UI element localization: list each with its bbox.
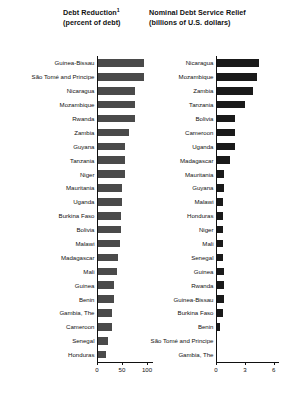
bar-row: Rwanda: [0, 112, 160, 126]
bar-plot-cell: [216, 153, 294, 167]
axis-tick-minor: [254, 362, 255, 364]
bar-row: Mozambique: [0, 98, 160, 112]
bar-category-label: Guinea-Bissau: [0, 59, 97, 66]
bar-row: Cameroon: [145, 125, 294, 139]
bar-category-label: Niger: [0, 171, 97, 178]
bar-plot-cell: [216, 348, 294, 362]
bar-row: Honduras: [145, 209, 294, 223]
bar-category-label: Uganda: [0, 198, 97, 205]
bar-plot-cell: [216, 334, 294, 348]
bar-row: Malawi: [145, 195, 294, 209]
bar-row: Benin: [0, 292, 160, 306]
bar-plot-cell: [216, 278, 294, 292]
bar-row: Mauritania: [0, 181, 160, 195]
bar-category-label: Zambia: [145, 87, 216, 94]
bar: [97, 226, 121, 234]
bar: [97, 101, 135, 109]
left-chart-rows: Guinea-BissauSão Tomé and PrincipeNicara…: [0, 56, 160, 362]
bar: [97, 129, 129, 137]
bar-category-label: Burkina Faso: [0, 212, 97, 219]
bar-category-label: Burkina Faso: [145, 309, 216, 316]
left-chart-axis: 050100: [0, 362, 160, 378]
bar-row: Mali: [145, 237, 294, 251]
bar-row: Rwanda: [145, 278, 294, 292]
bar: [216, 156, 230, 164]
left-panel-title: Debt Reduction1 (percent of debt): [63, 8, 121, 28]
axis-spine: [97, 56, 98, 363]
bar-category-label: Bolivia: [0, 226, 97, 233]
right-panel-title: Nominal Debt Service Relief (billions of…: [149, 8, 246, 28]
bar-category-label: Gambia, The: [0, 309, 97, 316]
bar: [97, 73, 144, 81]
bar-row: Gambia, The: [145, 348, 294, 362]
bar: [97, 212, 121, 220]
bar-category-label: Madagascar: [0, 254, 97, 261]
bar: [216, 184, 224, 192]
bar: [97, 309, 112, 317]
bar: [97, 351, 106, 359]
bar-plot-cell: [216, 306, 294, 320]
axis-spine: [216, 56, 217, 363]
axis-tick-major: [97, 362, 98, 365]
bar: [216, 226, 223, 234]
bar-plot-cell: [216, 56, 294, 70]
debt-relief-figure: Debt Reduction1 (percent of debt) Nomina…: [0, 0, 294, 403]
bar-row: Mali: [0, 264, 160, 278]
bar: [97, 254, 118, 262]
axis-tick-minor: [135, 362, 136, 364]
bar-category-label: Mozambique: [0, 101, 97, 108]
axis-tick-minor: [226, 362, 227, 364]
bar: [97, 143, 125, 151]
bar-row: Guinea-Bissau: [0, 56, 160, 70]
bar: [216, 212, 223, 220]
bar-category-label: Mauritania: [0, 184, 97, 191]
bar: [97, 337, 108, 345]
right-panel-subtitle: (billions of U.S. dollars): [149, 18, 246, 28]
bar: [97, 87, 135, 95]
bar: [97, 281, 114, 289]
axis-tick-minor: [110, 362, 111, 364]
bar: [97, 59, 144, 67]
bar-category-label: Gambia, The: [145, 351, 216, 358]
bar-category-label: Rwanda: [145, 282, 216, 289]
bar-category-label: Tanzania: [145, 101, 216, 108]
bar-plot-cell: [216, 84, 294, 98]
bar-row: Benin: [145, 320, 294, 334]
left-panel-title-text: Debt Reduction: [63, 8, 117, 17]
bar: [97, 198, 122, 206]
bar-plot-cell: [216, 250, 294, 264]
bar-category-label: Benin: [145, 323, 216, 330]
bar-row: São Tomé and Principe: [145, 334, 294, 348]
bar: [97, 156, 125, 164]
bar-row: São Tomé and Principe: [0, 70, 160, 84]
bar-row: Uganda: [0, 195, 160, 209]
bar: [97, 115, 135, 123]
bar-category-label: Cameroon: [145, 129, 216, 136]
bar-row: Nicaragua: [0, 84, 160, 98]
axis-tick-major: [274, 362, 275, 365]
axis-tick-label: 50: [119, 366, 126, 373]
bar-category-label: Bolivia: [145, 115, 216, 122]
bar-row: Mozambique: [145, 70, 294, 84]
bar-row: Senegal: [0, 334, 160, 348]
bar-row: Guinea: [0, 278, 160, 292]
bar: [97, 240, 120, 248]
bar: [216, 59, 259, 67]
left-chart-panel: Guinea-BissauSão Tomé and PrincipeNicara…: [0, 56, 160, 378]
bar: [216, 115, 235, 123]
bar-row: Zambia: [0, 125, 160, 139]
bar-category-label: Malawi: [0, 240, 97, 247]
bar-category-label: Madagascar: [145, 157, 216, 164]
bar-plot-cell: [216, 70, 294, 84]
bar-row: Uganda: [145, 139, 294, 153]
bar-row: Tanzania: [0, 153, 160, 167]
bar-plot-cell: [216, 237, 294, 251]
bar-plot-cell: [216, 195, 294, 209]
bar-plot-cell: [216, 181, 294, 195]
bar-category-label: Senegal: [145, 254, 216, 261]
bar-category-label: Guyana: [145, 184, 216, 191]
bar-row: Bolivia: [145, 112, 294, 126]
bar-category-label: Nicaragua: [145, 59, 216, 66]
bar-plot-cell: [216, 264, 294, 278]
right-chart-panel: NicaraguaMozambiqueZambiaTanzaniaBolivia…: [145, 56, 294, 378]
